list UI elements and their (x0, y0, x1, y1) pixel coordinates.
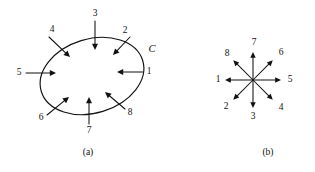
panel-a-caption: (a) (83, 147, 94, 158)
panel-b-arrow-8-shaft (236, 63, 253, 80)
panel-a-arrow-1 (117, 69, 143, 75)
panel-b-arrow-6 (253, 60, 273, 80)
panel-a-arrow-4-shaft (49, 37, 66, 54)
panel-b-arrow-2-shaft (236, 80, 253, 97)
panel-b-arrow-4 (253, 80, 273, 100)
panel-a-arrow-2 (113, 37, 130, 55)
panel-b-arrow-2 (233, 80, 253, 100)
panel-a-arrow-label-4: 4 (50, 24, 55, 34)
panel-a-arrow-7-head (86, 97, 92, 103)
closed-curve-c (30, 25, 153, 127)
panel-a-arrow-6-shaft (47, 100, 65, 115)
panel-a-group: 12345678 C (a) (17, 8, 157, 158)
panel-b-arrow-label-2: 2 (224, 101, 229, 111)
panel-b-group: 12345678 (b) (216, 37, 293, 158)
panel-b-arrow-5 (253, 77, 281, 82)
panel-b-arrow-7-head (250, 52, 255, 58)
panel-b-arrow-1 (225, 77, 253, 82)
panel-a-arrow-group (26, 21, 143, 124)
panel-b-arrow-8 (233, 60, 253, 80)
panel-b-arrow-label-1: 1 (216, 74, 221, 84)
panel-a-arrow-label-8: 8 (128, 107, 133, 117)
panel-a-arrow-7 (86, 97, 92, 124)
panel-b-arrow-1-head (225, 77, 231, 82)
figure-svg: 12345678 C (a) 12345678 (b) (0, 0, 315, 172)
panel-b-arrow-label-3: 3 (251, 111, 256, 121)
panel-a-arrow-label-1: 1 (147, 66, 152, 76)
curve-label-c: C (148, 43, 156, 54)
panel-b-arrow-6-shaft (253, 63, 270, 80)
panel-a-arrow-3 (92, 21, 98, 50)
panel-a-arrow-label-3: 3 (93, 8, 98, 18)
panel-b-caption: (b) (262, 147, 273, 158)
panel-b-arrow-group (225, 52, 281, 108)
figure-canvas: 12345678 C (a) 12345678 (b) (0, 0, 315, 172)
panel-b-arrow-label-7: 7 (252, 37, 257, 47)
panel-a-arrow-label-7: 7 (87, 125, 92, 135)
panel-b-arrow-3 (250, 80, 255, 108)
panel-b-arrow-4-shaft (253, 80, 270, 97)
panel-a-arrow-label-5: 5 (17, 67, 22, 77)
panel-b-arrow-label-4: 4 (279, 102, 284, 112)
panel-b-arrow-label-5: 5 (288, 74, 293, 84)
panel-b-arrow-3-head (250, 102, 255, 108)
panel-b-arrow-7 (250, 52, 255, 80)
panel-a-arrow-1-head (117, 69, 123, 75)
panel-b-arrow-5-head (275, 77, 281, 82)
panel-a-arrow-label-2: 2 (123, 25, 128, 35)
panel-b-arrow-label-8: 8 (225, 48, 230, 58)
panel-a-arrow-3-head (92, 44, 98, 50)
panel-a-arrow-label-6: 6 (39, 112, 44, 122)
panel-a-arrow-5-head (50, 70, 56, 76)
panel-b-arrow-label-6: 6 (279, 47, 284, 57)
